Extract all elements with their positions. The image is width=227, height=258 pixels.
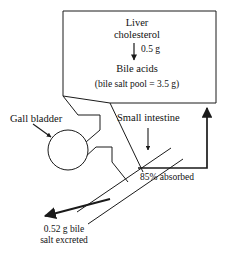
excreted-label-line1: 0.52 g bile xyxy=(10,224,118,235)
synthesis-amount-label: 0.5 g xyxy=(141,44,160,55)
liver-label-line1: Liver xyxy=(98,17,176,29)
excreted-amount-label: 0.52 g bile salt excreted xyxy=(10,224,118,245)
gall-bladder-label: Gall bladder xyxy=(10,113,62,125)
excreted-label-line2: salt excreted xyxy=(10,235,118,246)
liver-label-line2: cholesterol xyxy=(98,29,176,41)
bile-salt-pool-label: (bile salt pool = 3.5 g) xyxy=(72,79,202,90)
excretion-arrow xyxy=(45,199,110,216)
gall-bladder-pointer-arrow xyxy=(33,124,51,137)
bile-salt-circulation-diagram: Liver cholesterol 0.5 g Bile acids (bile… xyxy=(0,0,227,258)
liver-cholesterol-label: Liver cholesterol xyxy=(98,17,176,41)
small-intestine-label: Small intestine xyxy=(117,112,180,124)
bile-acids-label: Bile acids xyxy=(98,63,176,75)
absorbed-percentage-label: 85% absorbed xyxy=(140,172,194,183)
gall-bladder-shape xyxy=(48,130,88,170)
